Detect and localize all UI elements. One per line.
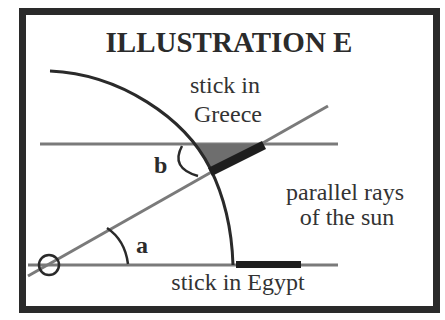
angle-b-label: b xyxy=(154,152,167,178)
stick-egypt xyxy=(236,261,301,268)
angle-a-label: a xyxy=(136,232,148,258)
diagram-title: ILLUSTRATION E xyxy=(106,26,353,58)
label-stick-greece-1: stick in xyxy=(190,72,260,98)
label-rays-2: of the sun xyxy=(300,204,395,230)
label-stick-greece-2: Greece xyxy=(194,101,262,127)
label-stick-egypt: stick in Egypt xyxy=(171,269,305,295)
label-rays-1: parallel rays xyxy=(286,179,404,205)
illustration-e-diagram: ILLUSTRATION E a b stick in Greece paral… xyxy=(0,0,445,320)
